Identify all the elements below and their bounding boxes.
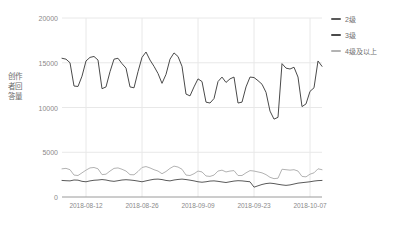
x-axis-tick-label: 2018-08-26 <box>125 202 158 209</box>
x-axis-tick-label: 2018-09-23 <box>237 202 270 209</box>
y-axis-tick-label: 10000 <box>39 104 58 111</box>
series-lines <box>62 52 322 187</box>
series-line <box>62 179 322 187</box>
y-axis-tick-label: 5000 <box>42 149 58 156</box>
series-line <box>62 166 322 179</box>
x-axis-tick-label: 2018-09-09 <box>181 202 214 209</box>
legend-item-label: 3级 <box>345 30 356 40</box>
legend-item[interactable]: 2级 <box>331 11 393 27</box>
y-axis-tick-label: 15000 <box>39 59 58 66</box>
y-axis-tick-label: 0 <box>54 194 58 201</box>
chart-legend: 2级3级4级及以上 <box>331 11 393 59</box>
legend-swatch-icon <box>331 50 341 53</box>
line-chart: 创作者回答量 05000100001500020000 2018-08-1220… <box>0 0 394 230</box>
x-axis-tick-label: 2018-10-07 <box>293 202 326 209</box>
y-axis-tick-label: 20000 <box>39 15 58 22</box>
legend-item[interactable]: 3级 <box>331 27 393 43</box>
series-line <box>62 52 322 119</box>
x-axis-tick-label: 2018-08-12 <box>69 202 102 209</box>
legend-item-label: 4级及以上 <box>345 46 377 56</box>
legend-item-label: 2级 <box>345 14 356 24</box>
y-axis-tick-labels: 05000100001500020000 <box>20 0 58 230</box>
legend-swatch-icon <box>331 34 341 37</box>
legend-item[interactable]: 4级及以上 <box>331 43 393 59</box>
legend-swatch-icon <box>331 18 341 21</box>
